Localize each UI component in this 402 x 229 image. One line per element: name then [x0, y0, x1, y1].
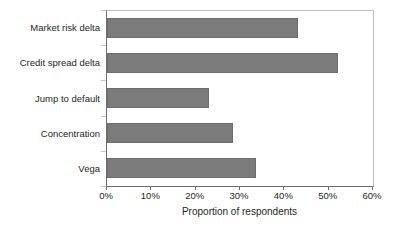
bar[interactable] — [107, 88, 209, 108]
x-axis-tick-label: 60% — [352, 190, 392, 202]
x-axis-tick-label: 50% — [308, 190, 348, 202]
category-label: Credit spread delta — [0, 57, 100, 68]
bar[interactable] — [107, 158, 256, 178]
x-axis-tick-label: 20% — [175, 190, 215, 202]
bar-row: Concentration — [0, 116, 402, 151]
bar-track — [107, 10, 373, 45]
bar-track — [107, 116, 373, 151]
category-label: Jump to default — [0, 93, 100, 104]
x-axis-tick-label: 40% — [263, 190, 303, 202]
bar-track — [107, 45, 373, 80]
category-label: Vega — [0, 163, 100, 174]
bar-row: Market risk delta — [0, 10, 402, 45]
bar-chart: Market risk deltaCredit spread deltaJump… — [0, 0, 402, 229]
bar-track — [107, 80, 373, 115]
bar-row: Credit spread delta — [0, 45, 402, 80]
x-axis-title: Proportion of respondents — [106, 205, 373, 218]
bar-track — [107, 151, 373, 186]
bar-rows: Market risk deltaCredit spread deltaJump… — [0, 10, 402, 186]
bar[interactable] — [107, 123, 233, 143]
x-axis-tick-label: 0% — [86, 190, 126, 202]
x-axis-tick-label: 30% — [219, 190, 259, 202]
bar[interactable] — [107, 18, 298, 38]
category-label: Concentration — [0, 128, 100, 139]
x-axis-tick-labels: 0%10%20%30%40%50%60% — [0, 190, 402, 204]
category-label: Market risk delta — [0, 22, 100, 33]
bar[interactable] — [107, 53, 338, 73]
x-axis-tick-label: 10% — [130, 190, 170, 202]
bar-row: Jump to default — [0, 80, 402, 115]
bar-row: Vega — [0, 151, 402, 186]
